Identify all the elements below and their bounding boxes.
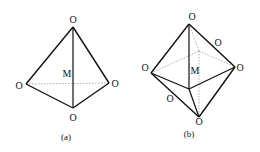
edge: [73, 83, 109, 108]
edge: [73, 27, 109, 83]
hidden-edge: [199, 51, 235, 67]
edge: [26, 84, 73, 108]
edge: [151, 73, 199, 117]
tetrahedron-diagram: O O O O M (a): [15, 14, 118, 142]
hidden-edge: [26, 83, 109, 84]
vertex-label-left: O: [15, 80, 22, 91]
caption-b: (b): [184, 129, 195, 139]
vertex-label-right: O: [236, 62, 243, 73]
edge: [151, 73, 189, 89]
vertex-label-top: O: [188, 11, 195, 22]
vertex-label-front: O: [166, 93, 173, 104]
caption-a: (a): [61, 132, 71, 142]
metal-center-label: M: [191, 65, 200, 76]
vertex-label-back: O: [214, 37, 221, 48]
edge: [199, 67, 235, 117]
metal-center-label: M: [63, 68, 72, 79]
vertex-label-bottom: O: [195, 116, 202, 127]
coordination-geometry-figure: O O O O M (a) O O O O O O M (b): [0, 0, 260, 152]
octahedron-diagram: O O O O O O M (b): [141, 11, 243, 139]
vertex-label-top: O: [69, 14, 76, 25]
edge: [189, 24, 235, 67]
vertex-label-right: O: [111, 78, 118, 89]
vertex-label-left: O: [141, 62, 148, 73]
vertex-label-bottom: O: [69, 112, 76, 123]
edge: [151, 24, 189, 73]
